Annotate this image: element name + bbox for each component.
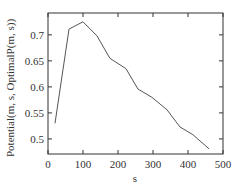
y-tick-label: 0.7: [30, 29, 44, 41]
y-tick-label: 0.6: [30, 81, 44, 93]
y-tick-label: 0.65: [25, 55, 45, 67]
data-line: [55, 22, 209, 149]
x-tick-label: 500: [215, 158, 232, 170]
x-tick-label: 200: [110, 158, 127, 170]
x-axis-ticks: 0100200300400500: [45, 13, 232, 170]
x-tick-label: 100: [75, 158, 92, 170]
plot-frame: [48, 13, 223, 154]
x-tick-label: 0: [45, 158, 51, 170]
x-axis-label: s: [133, 172, 137, 184]
y-tick-label: 0.55: [25, 107, 45, 119]
y-tick-label: 0.5: [30, 133, 44, 145]
y-axis-ticks: 0.50.550.60.650.7: [25, 29, 223, 145]
x-tick-label: 400: [180, 158, 197, 170]
x-tick-label: 300: [145, 158, 162, 170]
y-axis-label: Potential(m, s, OptimalP(m, s)): [4, 19, 17, 157]
line-chart: 0100200300400500 0.50.550.60.650.7 s Pot…: [0, 0, 242, 190]
